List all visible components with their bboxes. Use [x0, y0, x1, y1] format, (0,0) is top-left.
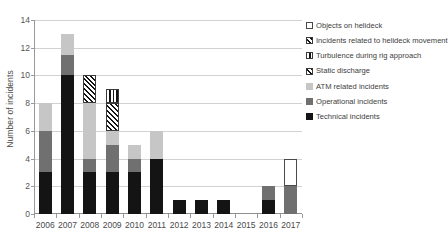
- x-axis-tick-label: 2014: [213, 220, 235, 230]
- bar-segment-helideck-move: [83, 75, 96, 103]
- bar-segment-atm: [83, 103, 96, 158]
- stacked-bar-chart: Number of incidents 02468101214 20062007…: [0, 0, 448, 246]
- x-axis-tick-label: 2007: [56, 220, 78, 230]
- bar-segment-operational: [128, 159, 141, 173]
- bar-column: [235, 20, 257, 214]
- y-axis-tick-mark: [31, 75, 34, 76]
- bar-stack: [150, 131, 163, 214]
- bar-segment-objects: [284, 159, 297, 187]
- x-axis-tick-label: 2012: [168, 220, 190, 230]
- bar-segment-technical: [39, 172, 52, 214]
- x-axis-tick-mark: [101, 214, 102, 218]
- bar-segment-technical: [128, 172, 141, 214]
- bar-segment-operational: [83, 159, 96, 173]
- bar-stack: [128, 145, 141, 214]
- x-axis-tick-mark: [34, 214, 35, 218]
- y-axis-tick-mark: [31, 159, 34, 160]
- bar-stack: [83, 75, 96, 214]
- bar-stack: [217, 200, 230, 214]
- bar-segment-operational: [39, 131, 52, 173]
- y-axis-title: Number of incidents: [2, 0, 18, 218]
- bar-segment-technical: [217, 200, 230, 214]
- legend-item-operational[interactable]: Operational incidents: [306, 94, 446, 109]
- bar-column: [190, 20, 212, 214]
- x-axis-tick-mark: [235, 214, 236, 218]
- x-axis-tick-mark: [56, 214, 57, 218]
- y-axis-tick-label: 10: [21, 70, 30, 80]
- x-axis-tick-mark: [79, 214, 80, 218]
- bar-stack: [61, 34, 74, 214]
- x-axis-tick-label: 2015: [235, 220, 257, 230]
- legend-item-turbulence[interactable]: Turbulence during rig approach: [306, 48, 446, 63]
- x-axis-tick-label: 2010: [123, 220, 145, 230]
- bar-segment-turbulence: [106, 89, 119, 103]
- y-axis-tick-mark: [31, 103, 34, 104]
- bar-stack: [195, 200, 208, 214]
- x-axis-tick-mark: [280, 214, 281, 218]
- bar-segment-operational: [262, 186, 275, 200]
- y-axis-tick-label: 4: [25, 154, 30, 164]
- y-axis-tick-label: 14: [21, 15, 30, 25]
- bar-column: [101, 20, 123, 214]
- y-axis-tick-mark: [31, 20, 34, 21]
- bar-series-group: [34, 20, 302, 214]
- y-axis-tick-label: 12: [21, 43, 30, 53]
- y-axis-tick-mark: [31, 186, 34, 187]
- bar-segment-atm: [150, 131, 163, 159]
- legend-item-helideck-move[interactable]: Incidents related to helideck movement: [306, 33, 446, 48]
- x-axis-tick-label: 2011: [146, 220, 168, 230]
- bar-segment-technical: [173, 200, 186, 214]
- y-axis-tick-label: 8: [25, 98, 30, 108]
- bar-column: [146, 20, 168, 214]
- x-axis-tick-mark: [123, 214, 124, 218]
- legend-swatch-helideck-move-icon: [306, 37, 313, 44]
- bar-segment-atm: [39, 103, 52, 131]
- y-axis-tick-mark: [31, 48, 34, 49]
- plot-area: 02468101214: [34, 20, 302, 214]
- x-axis-tick-mark: [168, 214, 169, 218]
- legend-item-atm[interactable]: ATM related incidents: [306, 79, 446, 94]
- bar-segment-atm: [61, 34, 74, 55]
- bar-column: [79, 20, 101, 214]
- x-axis-tick-mark: [146, 214, 147, 218]
- bar-segment-atm: [106, 131, 119, 145]
- legend-swatch-objects-icon: [306, 22, 313, 29]
- bar-segment-technical: [83, 172, 96, 214]
- legend-item-static[interactable]: Static discharge: [306, 64, 446, 79]
- x-axis-tick-label: 2013: [190, 220, 212, 230]
- legend-label: Incidents related to helideck movement: [316, 37, 448, 45]
- bar-segment-technical: [150, 159, 163, 214]
- chart-legend: Objects on helideckIncidents related to …: [306, 18, 446, 124]
- x-axis-tick-mark: [213, 214, 214, 218]
- x-axis-tick-mark: [257, 214, 258, 218]
- legend-item-objects[interactable]: Objects on helideck: [306, 18, 446, 33]
- bar-segment-static: [106, 103, 119, 131]
- bar-stack: [39, 103, 52, 214]
- y-axis-tick-label: 6: [25, 126, 30, 136]
- x-axis-tick-mark: [190, 214, 191, 218]
- bar-segment-operational: [284, 186, 297, 214]
- x-axis-tick-label: 2008: [79, 220, 101, 230]
- bar-column: [257, 20, 279, 214]
- bar-column: [56, 20, 78, 214]
- bar-segment-technical: [61, 75, 74, 214]
- bar-segment-technical: [262, 200, 275, 214]
- bar-stack: [262, 186, 275, 214]
- x-axis-tick-label: 2017: [280, 220, 302, 230]
- x-axis-labels: 2006200720082009201020112012201320142015…: [34, 220, 302, 230]
- bar-segment-technical: [195, 200, 208, 214]
- bar-stack: [284, 159, 297, 214]
- y-axis-tick-label: 0: [25, 209, 30, 219]
- x-axis-tick-mark: [302, 214, 303, 218]
- legend-swatch-static-icon: [306, 68, 313, 75]
- legend-label: Technical incidents: [316, 113, 380, 121]
- x-axis-tick-label: 2009: [101, 220, 123, 230]
- bar-segment-operational: [106, 145, 119, 173]
- bar-column: [34, 20, 56, 214]
- y-axis-title-text: Number of incidents: [5, 70, 15, 148]
- legend-item-technical[interactable]: Technical incidents: [306, 109, 446, 124]
- bar-segment-technical: [106, 172, 119, 214]
- legend-label: Operational incidents: [316, 98, 387, 106]
- bar-stack: [106, 89, 119, 214]
- legend-swatch-technical-icon: [306, 113, 313, 120]
